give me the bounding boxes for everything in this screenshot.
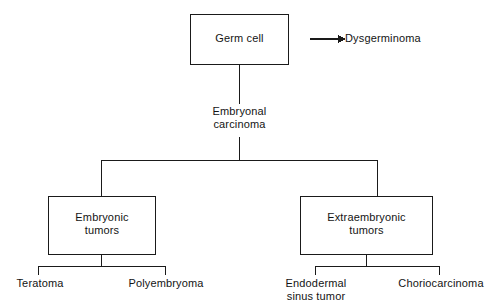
extraembryonic-tumors-label: Extraembryonic tumors (300, 211, 433, 238)
diagram-canvas: Germ cell Dysgerminoma Embryonal carcino… (0, 0, 497, 308)
germ-cell-label: Germ cell (190, 32, 289, 45)
diagram-connectors (0, 0, 497, 308)
endodermal-sinus-tumor-label: Endodermal sinus tumor (270, 277, 362, 304)
choriocarcinoma-label: Choriocarcinoma (385, 277, 497, 290)
embryonal-carcinoma-label: Embryonal carcinoma (189, 105, 290, 132)
embryonic-tumors-label: Embryonic tumors (48, 211, 156, 238)
polyembryoma-label: Polyembryoma (111, 277, 221, 290)
dysgerminoma-label: Dysgerminoma (345, 32, 485, 45)
teratoma-label: Teratoma (0, 277, 80, 290)
